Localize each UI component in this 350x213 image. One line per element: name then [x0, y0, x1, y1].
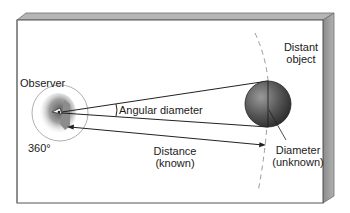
distant-object-label: Distant object [271, 41, 331, 65]
diameter-label-line1: Diameter [268, 144, 328, 156]
box-top-face [17, 13, 334, 20]
distance-label-line2: (known) [140, 157, 210, 169]
observer-label: Observer [20, 77, 65, 89]
diameter-label: Diameter (unknown) [268, 144, 328, 168]
distant-object-label-line1: Distant [271, 41, 331, 53]
diameter-label-line2: (unknown) [268, 156, 328, 168]
distance-label: Distance (known) [140, 145, 210, 169]
distant-object-label-line2: object [271, 53, 331, 65]
angular-diameter-label: Angular diameter [119, 104, 203, 116]
distance-label-line1: Distance [140, 145, 210, 157]
degrees-label: 360° [28, 142, 51, 154]
